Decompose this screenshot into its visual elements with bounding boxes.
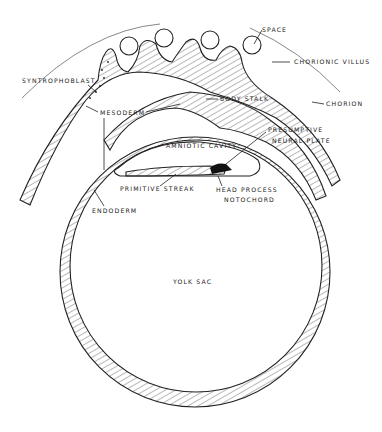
label-notochord: NOTOCHORD [224, 196, 275, 203]
label-primitive-streak: PRIMITIVE STREAK [120, 185, 195, 192]
label-chorion: CHORION [326, 100, 363, 107]
label-amniotic-cavity: AMNIOTIC CAVITY [166, 142, 237, 149]
label-yolk-sac: YOLK SAC [172, 278, 212, 285]
label-endoderm: ENDODERM [92, 207, 137, 214]
intervillous-space [120, 37, 138, 55]
label-body-stalk: BODY STALK [220, 95, 269, 102]
leader-line [312, 102, 324, 104]
label-mesoderm: MESODERM [100, 109, 145, 116]
intervillous-space [201, 31, 219, 49]
label-neural-plate: NEURAL PLATE [272, 137, 331, 144]
label-space: SPACE [262, 26, 287, 33]
label-chorionic-villus: CHORIONIC VILLUS [294, 58, 370, 65]
embryo-diagram: SPACE CHORIONIC VILLUS SYNTROPHOBLAST BO… [0, 0, 382, 432]
label-presumptive: PRESUMPTIVE [268, 126, 323, 133]
label-head-process: HEAD PROCESS [216, 186, 278, 193]
label-syntrophoblast: SYNTROPHOBLAST [22, 77, 96, 84]
intervillous-space [155, 29, 173, 47]
yolk-sac-cavity [70, 140, 322, 392]
intervillous-space [243, 36, 261, 54]
